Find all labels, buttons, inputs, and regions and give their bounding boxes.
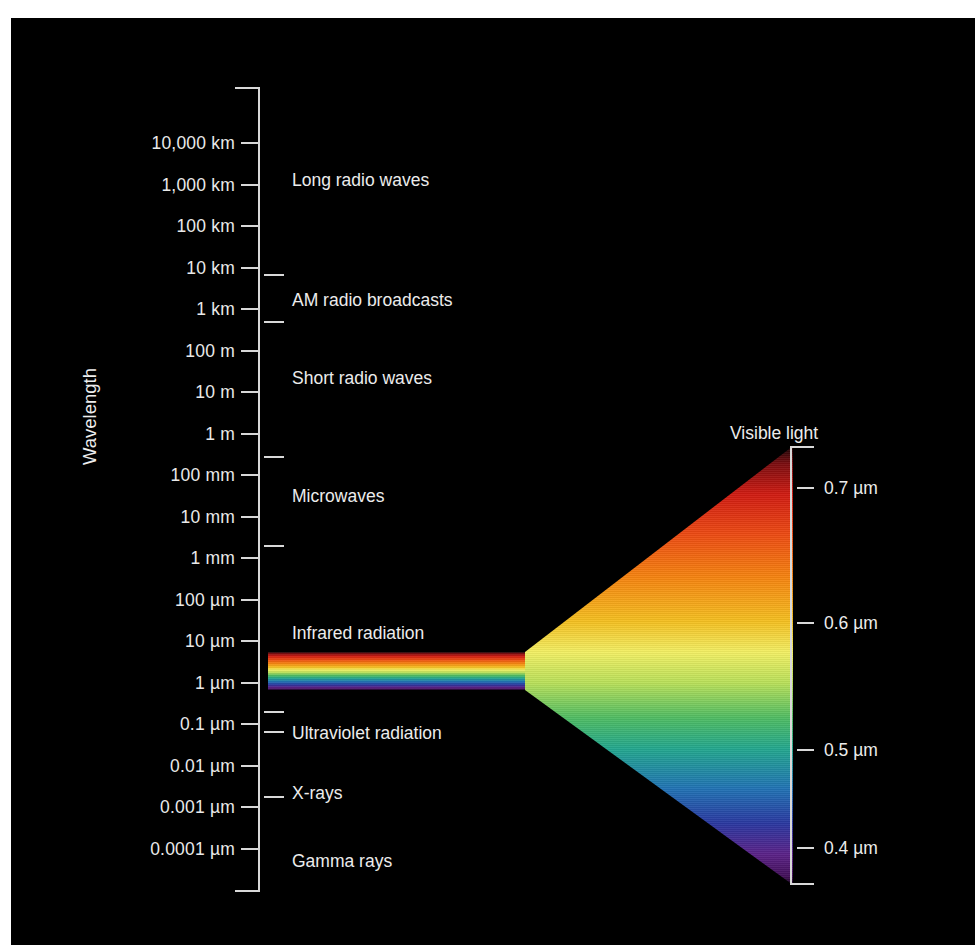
band-label-ultraviolet-radiation: Ultraviolet radiation bbox=[292, 723, 442, 744]
band-boundary-tick bbox=[264, 274, 284, 276]
band-label-microwaves: Microwaves bbox=[292, 486, 384, 507]
visible-axis-bracket-bottom bbox=[792, 883, 814, 885]
figure-root: Wavelength 10,000 km 1,000 km 100 km 10 … bbox=[0, 0, 975, 945]
band-label-infrared-radiation: Infrared radiation bbox=[292, 623, 424, 644]
wavelength-tick bbox=[241, 765, 258, 767]
wavelength-tick bbox=[241, 391, 258, 393]
band-boundary-tick bbox=[264, 711, 284, 713]
wavelength-tick bbox=[241, 599, 258, 601]
wavelength-tick-label: 0.0001 µm bbox=[150, 839, 235, 860]
visible-axis-line bbox=[790, 446, 792, 885]
wavelength-tick bbox=[241, 267, 258, 269]
band-boundary-tick bbox=[264, 321, 284, 323]
spectrum-gradient bbox=[525, 446, 793, 885]
wavelength-tick-label: 0.001 µm bbox=[160, 797, 235, 818]
wavelength-tick bbox=[241, 723, 258, 725]
visible-light-caption: Visible light bbox=[730, 423, 818, 444]
wavelength-tick-label: 10 m bbox=[195, 382, 235, 403]
band-boundary-tick bbox=[264, 456, 284, 458]
wavelength-tick-label: 1 µm bbox=[195, 673, 235, 694]
wavelength-tick-label: 1 m bbox=[205, 424, 235, 445]
band-label-short-radio-waves: Short radio waves bbox=[292, 368, 432, 389]
wavelength-tick-label: 1 km bbox=[196, 299, 235, 320]
wavelength-tick bbox=[241, 142, 258, 144]
band-boundary-tick bbox=[264, 731, 284, 733]
visible-tick bbox=[797, 847, 814, 849]
band-label-long-radio-waves: Long radio waves bbox=[292, 170, 429, 191]
visible-axis-bracket-top bbox=[792, 446, 814, 448]
visible-tick-label: 0.4 µm bbox=[824, 838, 878, 859]
wavelength-tick bbox=[241, 225, 258, 227]
wavelength-tick-label: 100 m bbox=[185, 341, 235, 362]
visible-spectrum-wedge bbox=[525, 446, 793, 885]
visible-tick bbox=[797, 622, 814, 624]
wavelength-tick bbox=[241, 308, 258, 310]
wavelength-tick bbox=[241, 806, 258, 808]
wavelength-tick-label: 10 mm bbox=[181, 507, 235, 528]
wavelength-tick bbox=[241, 474, 258, 476]
band-label-x-rays: X-rays bbox=[292, 783, 343, 804]
wavelength-tick bbox=[241, 433, 258, 435]
band-boundary-tick bbox=[264, 796, 284, 798]
band-boundary-tick bbox=[264, 545, 284, 547]
wavelength-tick bbox=[241, 516, 258, 518]
visible-tick bbox=[797, 487, 814, 489]
visible-tick-label: 0.7 µm bbox=[824, 478, 878, 499]
visible-tick-label: 0.5 µm bbox=[824, 740, 878, 761]
wavelength-axis-bracket-top bbox=[235, 87, 259, 89]
wavelength-tick bbox=[241, 640, 258, 642]
wavelength-tick bbox=[241, 557, 258, 559]
wavelength-tick-label: 100 µm bbox=[175, 590, 235, 611]
wavelength-tick-label: 0.01 µm bbox=[170, 756, 235, 777]
wavelength-tick bbox=[241, 184, 258, 186]
visible-tick bbox=[797, 749, 814, 751]
band-label-am-radio-broadcasts: AM radio broadcasts bbox=[292, 290, 453, 311]
wavelength-axis-line bbox=[258, 87, 260, 892]
wavelength-tick-label: 0.1 µm bbox=[180, 714, 235, 735]
visible-spectrum-strip bbox=[268, 652, 527, 690]
wavelength-tick-label: 1 mm bbox=[190, 548, 235, 569]
wavelength-tick-label: 1,000 km bbox=[161, 175, 235, 196]
wavelength-tick-label: 100 km bbox=[176, 216, 235, 237]
wavelength-tick bbox=[241, 848, 258, 850]
band-label-gamma-rays: Gamma rays bbox=[292, 851, 392, 872]
wavelength-tick-label: 10 km bbox=[186, 258, 235, 279]
wavelength-tick-label: 10,000 km bbox=[151, 133, 235, 154]
wavelength-tick bbox=[241, 350, 258, 352]
wavelength-tick-label: 10 µm bbox=[185, 631, 235, 652]
wavelength-tick-label-group: 10,000 km 1,000 km 100 km 10 km 1 km 100… bbox=[11, 18, 235, 945]
visible-tick-label: 0.6 µm bbox=[824, 613, 878, 634]
wavelength-tick-label: 100 mm bbox=[171, 465, 235, 486]
spectrum-plate: Wavelength 10,000 km 1,000 km 100 km 10 … bbox=[11, 18, 975, 945]
spectrum-gradient bbox=[268, 652, 527, 690]
wavelength-tick bbox=[241, 682, 258, 684]
wavelength-axis-bracket-bottom bbox=[235, 890, 259, 892]
